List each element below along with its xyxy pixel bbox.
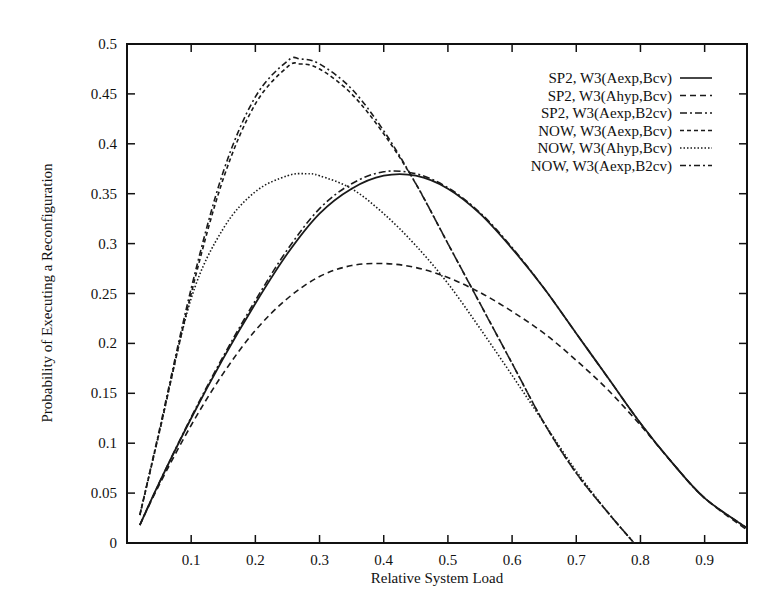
x-tick-label: 0.1 bbox=[182, 552, 201, 568]
line-chart: 00.050.10.150.20.250.30.350.40.450.5 0.1… bbox=[0, 0, 783, 614]
series-line-2 bbox=[140, 171, 747, 528]
legend-entry-label: NOW, W3(Aexp,Bcv) bbox=[538, 123, 672, 140]
y-tick-label: 0.1 bbox=[98, 435, 117, 451]
series-line-0 bbox=[140, 174, 747, 528]
y-tick-label: 0 bbox=[110, 535, 118, 551]
x-axis-title: Relative System Load bbox=[371, 570, 504, 586]
y-tick-label: 0.15 bbox=[91, 385, 117, 401]
y-tick-label: 0.2 bbox=[98, 335, 117, 351]
x-tick-label: 0.8 bbox=[631, 552, 650, 568]
x-tick-label: 0.4 bbox=[374, 552, 393, 568]
series-line-1 bbox=[140, 263, 747, 530]
y-tick-label: 0.25 bbox=[91, 286, 117, 302]
series-line-4 bbox=[140, 174, 634, 543]
legend-entry-label: SP2, W3(Aexp,Bcv) bbox=[549, 70, 672, 87]
y-tick-label: 0.45 bbox=[91, 86, 117, 102]
x-tick-label: 0.3 bbox=[310, 552, 329, 568]
legend-entry-label: NOW, W3(Ahyp,Bcv) bbox=[537, 140, 672, 157]
x-tick-label: 0.5 bbox=[439, 552, 458, 568]
legend-entry-label: SP2, W3(Aexp,B2cv) bbox=[541, 105, 672, 122]
legend: SP2, W3(Aexp,Bcv)SP2, W3(Ahyp,Bcv)SP2, W… bbox=[531, 70, 712, 175]
y-axis-title: Probability of Executing a Reconfigurati… bbox=[39, 163, 55, 423]
legend-entry-label: NOW, W3(Aexp,B2cv) bbox=[531, 158, 672, 175]
legend-entry-label: SP2, W3(Ahyp,Bcv) bbox=[548, 88, 672, 105]
y-tick-label: 0.4 bbox=[98, 136, 117, 152]
x-tick-label: 0.2 bbox=[246, 552, 265, 568]
y-tick-label: 0.05 bbox=[91, 485, 117, 501]
x-tick-label: 0.9 bbox=[695, 552, 714, 568]
y-tick-label: 0.3 bbox=[98, 236, 117, 252]
x-tick-label: 0.6 bbox=[503, 552, 522, 568]
y-tick-label: 0.35 bbox=[91, 186, 117, 202]
x-tick-label: 0.7 bbox=[567, 552, 586, 568]
y-tick-label: 0.5 bbox=[98, 36, 117, 52]
